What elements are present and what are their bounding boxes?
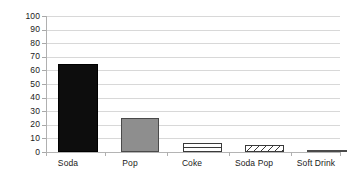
y-axis-label-70: 70 — [6, 52, 40, 61]
bar-soft-drink — [307, 150, 347, 152]
y-axis-line — [46, 16, 47, 153]
x-tick-4 — [291, 152, 292, 156]
bar-coke — [183, 143, 222, 153]
y-axis-labels: 100 90 80 70 60 50 40 30 20 10 0 — [0, 0, 40, 180]
y-tick-80 — [42, 43, 46, 44]
x-tick-5 — [340, 152, 341, 156]
y-axis-label-40: 40 — [6, 93, 40, 102]
bar-coke-midline — [184, 147, 221, 148]
x-tick-0 — [46, 152, 47, 156]
gridline-80 — [46, 43, 340, 44]
x-axis-label-soda-pop: Soda Pop — [224, 158, 284, 168]
bar-pop — [121, 118, 159, 152]
y-tick-60 — [42, 70, 46, 71]
x-axis-label-soda: Soda — [38, 158, 98, 168]
y-axis-label-80: 80 — [6, 39, 40, 48]
y-tick-90 — [42, 30, 46, 31]
x-tick-1 — [105, 152, 106, 156]
x-tick-3 — [229, 152, 230, 156]
y-axis-label-10: 10 — [6, 134, 40, 143]
x-axis-label-soft-drink: Soft Drink — [285, 158, 347, 168]
gridline-90 — [46, 30, 340, 31]
gridline-0-baseline — [46, 152, 340, 153]
y-axis-label-50: 50 — [6, 80, 40, 89]
gridline-100 — [46, 16, 340, 17]
bar-soda-pop — [245, 145, 284, 152]
y-axis-label-0: 0 — [6, 148, 40, 157]
y-tick-40 — [42, 98, 46, 99]
y-axis-label-100: 100 — [6, 12, 40, 21]
gridline-70 — [46, 57, 340, 58]
y-tick-50 — [42, 84, 46, 85]
y-axis-label-90: 90 — [6, 25, 40, 34]
bar-soda — [58, 64, 98, 152]
y-axis-label-60: 60 — [6, 66, 40, 75]
y-axis-label-20: 20 — [6, 120, 40, 129]
y-tick-100 — [42, 16, 46, 17]
y-tick-20 — [42, 125, 46, 126]
x-axis-label-coke: Coke — [162, 158, 222, 168]
plot-area — [46, 16, 340, 152]
y-tick-10 — [42, 138, 46, 139]
y-axis-label-30: 30 — [6, 107, 40, 116]
x-tick-2 — [167, 152, 168, 156]
y-tick-30 — [42, 111, 46, 112]
y-tick-70 — [42, 57, 46, 58]
x-axis-label-pop: Pop — [100, 158, 160, 168]
